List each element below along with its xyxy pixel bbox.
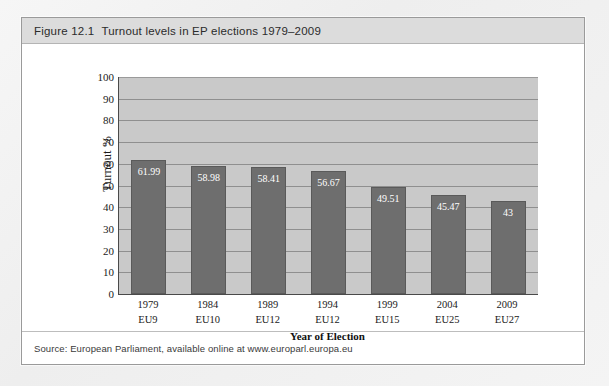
y-tick-20: 20 [103,245,114,257]
figure-header: Figure 12.1Turnout levels in EP election… [22,18,584,44]
x-tick-1999: 1999 EU15 [357,297,417,327]
bar-slot: 58.41 [239,77,299,294]
bar-value-label: 58.41 [257,173,280,184]
y-tick-60: 60 [103,158,114,170]
y-tick-40: 40 [103,201,114,213]
bar-1989[interactable]: 58.41 [251,167,286,294]
figure-title: Figure 12.1Turnout levels in EP election… [34,25,321,37]
y-tick-30: 30 [103,223,114,235]
y-tick-70: 70 [103,136,114,148]
bar-1979[interactable]: 61.99 [131,160,166,295]
bar-1999[interactable]: 49.51 [371,187,406,294]
x-tick-2009: 2009 EU27 [477,297,537,327]
x-tick-year: 1989 [238,297,298,312]
bar-value-label: 56.67 [317,177,340,188]
x-tick-year: 2004 [417,297,477,312]
x-tick-sublabel: EU12 [238,312,298,327]
y-tick-80: 80 [103,114,114,126]
bar-value-label: 49.51 [377,193,400,204]
x-tick-sublabel: EU15 [357,312,417,327]
x-tick-sublabel: EU25 [417,312,477,327]
x-axis-title: Year of Election [118,330,537,342]
x-tick-year: 1999 [357,297,417,312]
y-tick-0: 0 [109,288,115,300]
bar-value-label: 43 [503,207,513,218]
bar-1984[interactable]: 58.98 [191,166,226,294]
y-tick-100: 100 [98,71,115,83]
source-note: Source: European Parliament, available o… [34,343,353,354]
bar-2004[interactable]: 45.47 [431,195,466,294]
x-tick-year: 1984 [178,297,238,312]
figure-title-text: Turnout levels in EP elections 1979–2009 [101,25,321,37]
figure-body: Turnout % 100 90 80 70 60 50 40 30 20 10… [22,44,584,331]
plot-area: 61.99 58.98 58.41 [118,77,538,295]
bar-series: 61.99 58.98 58.41 [119,77,538,294]
y-tick-90: 90 [103,93,114,105]
x-axis-ticklabels: 1979 EU9 1984 EU10 1989 EU12 1994 EU12 1… [118,297,537,327]
x-tick-2004: 2004 EU25 [417,297,477,327]
bar-slot: 45.47 [418,77,478,294]
bar-1994[interactable]: 56.67 [311,171,346,294]
x-tick-year: 1994 [298,297,358,312]
bar-slot: 58.98 [179,77,239,294]
y-tick-10: 10 [103,266,114,278]
bar-value-label: 61.99 [138,166,161,177]
figure-number: Figure 12.1 [34,25,94,37]
bar-2009[interactable]: 43 [491,201,526,294]
x-tick-year: 2009 [477,297,537,312]
x-tick-sublabel: EU27 [477,312,537,327]
bar-slot: 49.51 [358,77,418,294]
x-tick-sublabel: EU10 [178,312,238,327]
x-tick-1979: 1979 EU9 [118,297,178,327]
bar-slot: 43 [478,77,538,294]
bar-chart: Turnout % 100 90 80 70 60 50 40 30 20 10… [22,44,586,331]
y-axis-ticklabels: 100 90 80 70 60 50 40 30 20 10 0 [80,77,114,294]
x-tick-sublabel: EU9 [118,312,178,327]
bar-value-label: 45.47 [437,201,460,212]
y-tick-50: 50 [103,180,114,192]
x-tick-year: 1979 [118,297,178,312]
figure-container: Figure 12.1Turnout levels in EP election… [21,17,585,365]
x-tick-1989: 1989 EU12 [238,297,298,327]
x-tick-1994: 1994 EU12 [298,297,358,327]
bar-slot: 56.67 [299,77,359,294]
bar-value-label: 58.98 [198,172,221,183]
x-tick-1984: 1984 EU10 [178,297,238,327]
x-tick-sublabel: EU12 [298,312,358,327]
bar-slot: 61.99 [119,77,179,294]
